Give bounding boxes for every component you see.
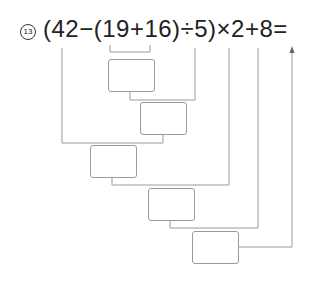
bracket-19-plus-16 xyxy=(110,45,150,52)
answer-box-1[interactable] xyxy=(108,59,155,92)
answer-box-4[interactable] xyxy=(148,188,195,221)
answer-box-3[interactable] xyxy=(90,145,137,178)
answer-box-5[interactable] xyxy=(192,231,239,264)
connector-lines xyxy=(0,0,312,284)
line-box5-to-result xyxy=(237,52,292,247)
answer-box-2[interactable] xyxy=(140,102,187,135)
arrow-up-icon xyxy=(290,46,295,53)
